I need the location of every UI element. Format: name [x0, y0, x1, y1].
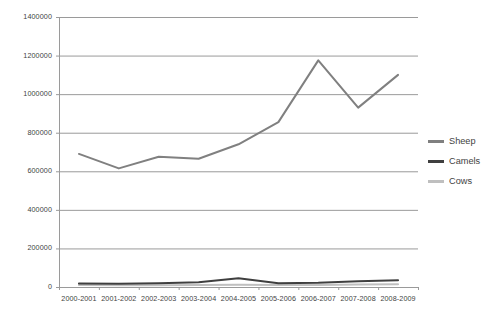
legend-swatch-icon — [428, 180, 444, 183]
line-chart: 0200000400000600000800000100000012000001… — [0, 0, 493, 319]
y-axis-labels: 0200000400000600000800000100000012000001… — [0, 0, 58, 319]
x-axis-tick-label: 2008-2009 — [380, 295, 415, 303]
x-axis-tick-label: 2002-2003 — [141, 295, 176, 303]
legend-label: Camels — [449, 156, 480, 166]
y-axis-tick-label: 400000 — [27, 206, 52, 214]
x-axis-tick-label: 2003-2004 — [181, 295, 216, 303]
series-line-sheep — [79, 60, 398, 168]
legend-item-camels[interactable]: Camels — [428, 151, 490, 171]
chart-legend: SheepCamelsCows — [428, 131, 490, 191]
x-axis-tick-label: 2005-2006 — [261, 295, 296, 303]
y-axis-tick-label: 1400000 — [23, 13, 52, 21]
y-axis-tick-label: 1000000 — [23, 90, 52, 98]
legend-item-sheep[interactable]: Sheep — [428, 131, 490, 151]
x-axis-tick-label: 2004-2005 — [221, 295, 256, 303]
y-axis-tick-label: 1200000 — [23, 52, 52, 60]
legend-swatch-icon — [428, 140, 444, 143]
y-axis-tick-label: 200000 — [27, 244, 52, 252]
y-axis-tick-label: 600000 — [27, 167, 52, 175]
y-axis-tick-label: 800000 — [27, 129, 52, 137]
y-axis-tick-label: 0 — [48, 283, 52, 291]
legend-item-cows[interactable]: Cows — [428, 171, 490, 191]
legend-label: Sheep — [449, 136, 476, 146]
x-axis-tick-label: 2000-2001 — [61, 295, 96, 303]
legend-label: Cows — [449, 176, 472, 186]
x-axis-tick-label: 2001-2002 — [101, 295, 136, 303]
chart-plot-area — [0, 0, 493, 319]
x-axis-tick-label: 2006-2007 — [301, 295, 336, 303]
x-axis-tick-label: 2007-2008 — [341, 295, 376, 303]
legend-swatch-icon — [428, 160, 444, 163]
series-line-camels — [79, 278, 398, 283]
